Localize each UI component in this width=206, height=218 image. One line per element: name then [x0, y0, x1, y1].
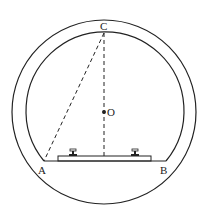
tunnel-diagram: C O A B [0, 0, 206, 218]
center-point-o [102, 110, 106, 114]
label-a: A [38, 164, 46, 176]
dashed-line-ca [44, 33, 104, 161]
inner-arch [26, 32, 184, 161]
track-bed [58, 156, 151, 161]
label-o: O [107, 106, 115, 118]
rail-right [131, 149, 139, 156]
label-b: B [160, 164, 167, 176]
rail-left [69, 149, 77, 156]
label-c: C [100, 20, 107, 32]
